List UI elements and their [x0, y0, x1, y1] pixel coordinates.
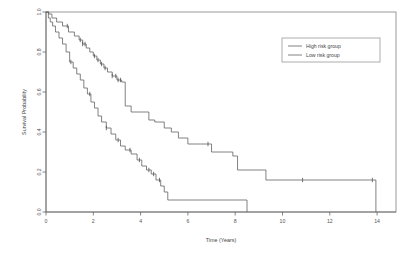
y-tick-label: 0.4: [36, 128, 42, 135]
y-tick-label: 1.0: [36, 8, 42, 15]
x-axis: 02468101214: [45, 212, 396, 224]
x-tick-label: 4: [139, 218, 142, 224]
chart-legend[interactable]: High risk group Low risk group: [282, 38, 380, 62]
km-plot-svg: 0.00.20.40.60.81.0 02468101214 Time (Yea…: [0, 0, 409, 257]
y-axis: 0.00.20.40.60.81.0: [36, 8, 46, 215]
x-tick-label: 8: [234, 218, 237, 224]
y-tick-label: 0.2: [36, 168, 42, 175]
x-tick-label: 0: [45, 218, 48, 224]
y-tick-label: 0.0: [36, 208, 42, 215]
x-tick-label: 12: [327, 218, 333, 224]
x-tick-label: 10: [280, 218, 286, 224]
y-axis-title: Survival Probability: [21, 89, 27, 135]
x-tick-label: 2: [92, 218, 95, 224]
legend-label-high-risk: High risk group: [306, 43, 341, 49]
legend-box: [282, 38, 380, 62]
y-tick-label: 0.8: [36, 48, 42, 55]
legend-label-low-risk: Low risk group: [306, 52, 340, 58]
x-axis-title: Time (Years): [206, 237, 237, 243]
x-tick-label: 6: [186, 218, 189, 224]
y-tick-label: 0.6: [36, 88, 42, 95]
x-tick-label: 14: [374, 218, 380, 224]
survival-chart-root: 0.00.20.40.60.81.0 02468101214 Time (Yea…: [0, 0, 409, 257]
